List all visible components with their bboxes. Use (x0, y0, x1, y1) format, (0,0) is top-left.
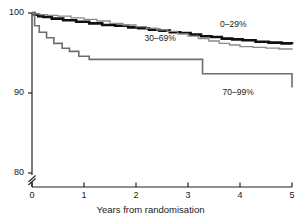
x-tick-label: 2 (129, 190, 143, 200)
survival-curve-chart: 100 90 80 0 1 2 3 4 5 0–29% 30–69% 70–99… (0, 0, 301, 216)
y-tick-label: 80 (2, 167, 24, 177)
curve-label-30-69: 30–69% (145, 33, 176, 43)
curves-layer (32, 13, 292, 87)
x-axis-title: Years from randomisation (0, 204, 301, 215)
x-tick-label: 1 (77, 190, 91, 200)
x-tick-label: 0 (25, 190, 39, 200)
y-tick-label: 100 (2, 7, 24, 17)
x-tick-label: 4 (233, 190, 247, 200)
curve-label-0-29: 0–29% (220, 19, 246, 29)
x-tick-label: 5 (285, 190, 299, 200)
x-tick-label: 3 (181, 190, 195, 200)
y-tick-label: 90 (2, 87, 24, 97)
curve-label-70-99: 70–99% (223, 87, 254, 97)
curve-70-99% (32, 13, 292, 87)
